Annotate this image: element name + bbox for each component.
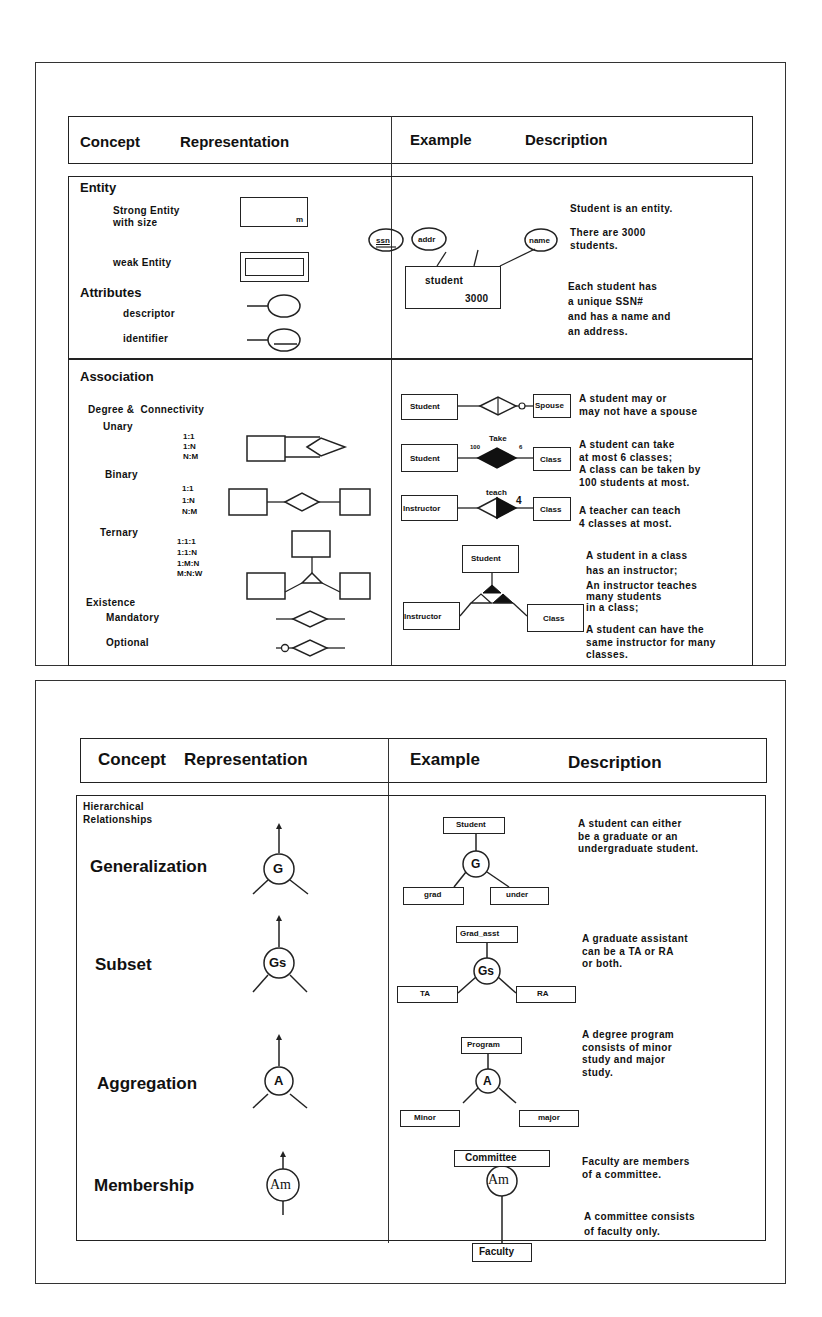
agg-description: A degree program consists of minor study… <box>582 1029 674 1079</box>
gen-description: A student can either be a graduate or an… <box>578 818 698 856</box>
mem-parent-label: Committee <box>465 1152 517 1164</box>
agg-parent-label: Program <box>467 1040 500 1050</box>
gen-child-under-label: under <box>506 890 528 900</box>
mem-child-faculty-label: Faculty <box>479 1246 514 1258</box>
subset-description: A graduate assistant can be a TA or RA o… <box>582 933 688 971</box>
aggregation-glyph: A <box>274 1073 283 1089</box>
generalization-glyph: G <box>273 861 283 877</box>
subset-child-ta-label: TA <box>420 989 430 999</box>
agg-child-major-label: major <box>538 1113 560 1123</box>
gen-parent-label: Student <box>456 820 486 830</box>
membership-glyph: Am <box>270 1177 291 1194</box>
aggregation-symbol <box>253 1034 307 1108</box>
subset-child-ra-label: RA <box>537 989 549 999</box>
mem-desc-1: Faculty are members of a committee. <box>582 1156 690 1181</box>
subset-parent-label: Grad_asst <box>460 929 499 939</box>
agg-child-minor-label: Minor <box>414 1113 436 1123</box>
agg-example-glyph: A <box>483 1074 492 1088</box>
subset-example-glyph: Gs <box>478 964 494 978</box>
generalization-symbol <box>253 823 308 894</box>
mem-desc-2: A committee consists of faculty only. <box>584 1209 695 1239</box>
subset-glyph: Gs <box>269 955 286 971</box>
mem-example-glyph: Am <box>488 1172 509 1189</box>
gen-example-glyph: G <box>471 857 480 871</box>
subset-symbol <box>253 915 307 992</box>
gen-child-grad-label: grad <box>424 890 441 900</box>
